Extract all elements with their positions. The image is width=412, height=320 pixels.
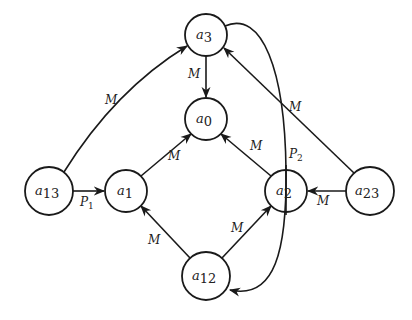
edge-label-a13-a3: M bbox=[104, 93, 118, 107]
edge-a12-a1 bbox=[141, 206, 190, 258]
edge-label-a1-a0: M bbox=[167, 149, 181, 163]
nodes bbox=[25, 14, 394, 300]
edge-label-a23-a3: M bbox=[288, 100, 302, 114]
node-label-a2: a2 bbox=[276, 183, 292, 201]
edge-a12-a2 bbox=[222, 206, 271, 258]
edge-label-a3-a12: P2 bbox=[288, 147, 303, 163]
edge-a1-a0 bbox=[141, 134, 191, 176]
diagram-canvas: a3 a0 a13 a1 a2 a23 a12 M M M M P1 M M M… bbox=[0, 0, 412, 320]
edge-label-a2-a0: M bbox=[249, 139, 263, 153]
edge-a2-a0 bbox=[221, 134, 271, 176]
edge-label-a12-a2: M bbox=[230, 221, 244, 235]
edge-label-a13-a1: P1 bbox=[79, 195, 94, 211]
edge-labels: M M M M P1 M M M M P2 bbox=[79, 67, 330, 247]
node-labels: a3 a0 a13 a1 a2 a23 a12 bbox=[35, 27, 379, 286]
edge-label-a23-a2: M bbox=[316, 194, 330, 208]
edge-label-a3-a0: M bbox=[187, 67, 201, 81]
edge-label-a12-a1: M bbox=[147, 233, 161, 247]
edges bbox=[64, 23, 354, 291]
edge-a3-a12 bbox=[225, 23, 286, 291]
